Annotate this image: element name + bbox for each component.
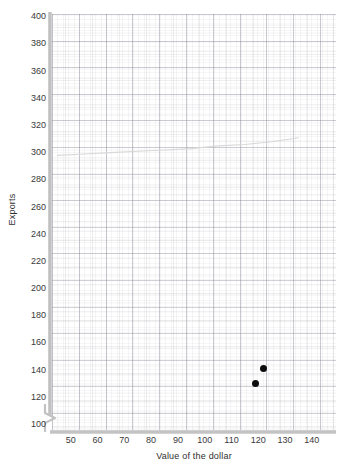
x-tick-label: 60 <box>85 436 111 445</box>
x-tick-label: 130 <box>272 436 298 445</box>
trend-line <box>57 138 298 156</box>
y-tick-label: 300 <box>2 148 46 157</box>
y-tick-label: 160 <box>2 338 46 347</box>
trend-curve <box>52 14 336 430</box>
y-axis-line <box>48 12 52 416</box>
x-tick-label: 120 <box>245 436 271 445</box>
y-tick-label: 220 <box>2 257 46 266</box>
y-tick-label: 100 <box>2 420 46 429</box>
y-tick-label: 380 <box>2 39 46 48</box>
x-tick-label: 110 <box>219 436 245 445</box>
y-tick-label: 320 <box>2 121 46 130</box>
y-tick-label: 120 <box>2 393 46 402</box>
x-tick-label: 100 <box>192 436 218 445</box>
x-tick-label: 50 <box>58 436 84 445</box>
y-tick-label: 400 <box>2 12 46 21</box>
grid-fine <box>52 14 336 430</box>
data-point <box>260 365 267 372</box>
y-tick-label: 140 <box>2 366 46 375</box>
chart-figure: 1001201401601802002202402602803003203403… <box>0 0 341 468</box>
y-tick-label: 340 <box>2 94 46 103</box>
x-tick-label: 140 <box>299 436 325 445</box>
x-tick-label: 80 <box>138 436 164 445</box>
y-tick-label: 360 <box>2 67 46 76</box>
x-axis-title: Value of the dollar <box>52 452 336 461</box>
grid-major <box>52 14 336 430</box>
x-tick-label: 70 <box>111 436 137 445</box>
data-point <box>252 380 259 387</box>
x-tick-label: 90 <box>165 436 191 445</box>
y-tick-label: 180 <box>2 311 46 320</box>
y-tick-label: 200 <box>2 284 46 293</box>
y-axis-title: Exports <box>8 180 17 240</box>
grid-scan-banding <box>52 14 336 430</box>
grid-medium <box>52 14 336 430</box>
x-axis-line <box>50 430 336 434</box>
plot-area <box>52 14 336 430</box>
